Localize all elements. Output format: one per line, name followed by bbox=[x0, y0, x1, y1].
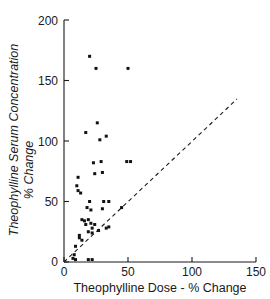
data-points-layer bbox=[71, 55, 132, 261]
data-point bbox=[93, 223, 96, 226]
data-point bbox=[74, 258, 77, 261]
data-point bbox=[84, 223, 87, 226]
data-point bbox=[107, 225, 110, 228]
data-point bbox=[127, 67, 130, 70]
data-point bbox=[102, 200, 105, 203]
x-tick-label-150: 150 bbox=[246, 265, 266, 279]
data-point bbox=[125, 160, 128, 163]
y-tick-label-0: 0 bbox=[51, 255, 58, 269]
data-point bbox=[79, 192, 82, 195]
y-tick-label-200: 200 bbox=[38, 14, 58, 28]
data-point bbox=[84, 131, 87, 134]
data-point bbox=[89, 222, 92, 225]
data-point bbox=[77, 189, 80, 192]
data-point bbox=[91, 231, 94, 234]
data-point bbox=[92, 161, 95, 164]
data-point bbox=[71, 257, 74, 260]
data-point bbox=[107, 200, 110, 203]
data-point bbox=[75, 184, 78, 187]
data-point bbox=[89, 208, 92, 211]
data-point bbox=[83, 219, 86, 222]
data-point bbox=[95, 67, 98, 70]
data-point bbox=[80, 218, 83, 221]
data-point bbox=[88, 200, 91, 203]
data-point bbox=[100, 160, 103, 163]
plot-canvas: 0 50 100 150 200 0 50 100 150 Theophylli… bbox=[0, 0, 270, 299]
identity-reference-line bbox=[64, 99, 237, 262]
axes-group bbox=[64, 20, 256, 262]
data-point bbox=[74, 245, 77, 248]
data-point bbox=[129, 160, 132, 163]
data-point bbox=[105, 135, 108, 138]
data-point bbox=[91, 258, 94, 261]
data-point bbox=[88, 55, 91, 58]
data-point bbox=[101, 207, 104, 210]
data-point bbox=[78, 236, 81, 239]
data-point bbox=[96, 121, 99, 124]
data-point bbox=[101, 171, 104, 174]
x-tick-label-50: 50 bbox=[121, 265, 135, 279]
y-tick-label-50: 50 bbox=[45, 195, 59, 209]
data-point bbox=[87, 218, 90, 221]
data-point bbox=[77, 176, 80, 179]
data-point bbox=[105, 227, 108, 230]
data-point bbox=[97, 229, 100, 232]
data-point bbox=[86, 206, 89, 209]
data-point bbox=[91, 227, 94, 230]
y-axis-title-line2: % Change bbox=[22, 141, 36, 199]
x-tick-label-100: 100 bbox=[182, 265, 202, 279]
y-tick-label-150: 150 bbox=[38, 74, 58, 88]
x-tick-label-0: 0 bbox=[61, 265, 68, 279]
x-axis-title: Theophylline Dose - % Change bbox=[73, 281, 246, 295]
data-point bbox=[73, 253, 76, 256]
scatter-plot-figure: 0 50 100 150 200 0 50 100 150 Theophylli… bbox=[0, 0, 270, 299]
data-point bbox=[98, 138, 101, 141]
data-point bbox=[120, 206, 123, 209]
y-axis-title-line1: Theophylline Serum Concentration bbox=[7, 44, 21, 237]
data-point bbox=[80, 239, 83, 242]
data-point bbox=[87, 230, 90, 233]
y-tick-label-100: 100 bbox=[38, 135, 58, 149]
data-point bbox=[93, 172, 96, 175]
data-point bbox=[87, 258, 90, 261]
